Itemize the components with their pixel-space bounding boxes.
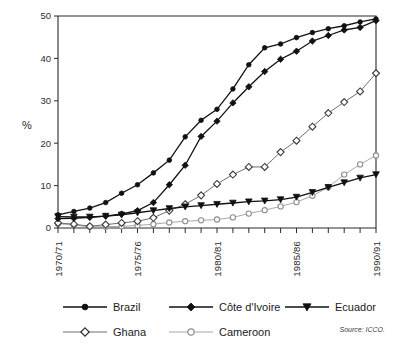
x-axis-tick-label: 1980/81 [212, 241, 223, 277]
y-axis-tick-label: 10 [40, 180, 51, 191]
data-point-marker [231, 87, 236, 92]
data-point-marker [229, 171, 236, 178]
data-point-marker [262, 46, 267, 51]
legend-item-ecuador[interactable]: Ecuador [284, 296, 376, 318]
data-point-marker [167, 220, 172, 225]
data-point-marker [294, 35, 299, 40]
data-point-marker [214, 217, 219, 222]
legend-label: Brazil [113, 301, 141, 313]
y-axis-tick-label: 30 [40, 95, 51, 106]
data-point-marker [230, 215, 235, 220]
y-axis-title: % [22, 119, 32, 131]
x-axis-tick-label: 1985/86 [291, 241, 302, 277]
data-point-marker [246, 211, 251, 216]
x-axis-tick-label: 1990/91 [371, 241, 382, 277]
source-note: Source: ICCO. [339, 326, 385, 333]
data-point-marker [357, 24, 363, 30]
data-point-marker [150, 214, 157, 221]
data-point-marker [247, 62, 252, 67]
line-chart-plot: 01020304050%1970/711975/761980/811985/86… [0, 0, 393, 296]
chart-legend: BrazilCôte d'IvoireEcuador GhanaCameroon… [0, 296, 393, 352]
legend-item-cameroon[interactable]: Cameroon [168, 321, 270, 343]
x-axis-tick-label: 1975/76 [132, 241, 143, 277]
legend-item-brazil[interactable]: Brazil [62, 296, 141, 318]
data-point-marker [358, 162, 363, 167]
plot-area-wrapper: 01020304050%1970/711975/761980/811985/86… [0, 0, 393, 296]
data-point-marker [214, 180, 221, 187]
data-point-marker [278, 204, 283, 209]
legend-label: Ecuador [335, 301, 376, 313]
open-diamond-icon [62, 326, 108, 338]
data-point-marker [151, 171, 156, 176]
legend-label: Ghana [113, 326, 146, 338]
chart-figure: 01020304050%1970/711975/761980/811985/86… [0, 0, 393, 359]
data-point-marker [183, 135, 188, 140]
filled-diamond-icon [168, 301, 214, 313]
y-axis-tick-label: 50 [40, 10, 51, 21]
data-point-marker [88, 206, 93, 211]
x-axis-tick-label: 1970/71 [53, 241, 64, 277]
data-point-marker [293, 48, 299, 54]
legend-label: Côte d'Ivoire [219, 301, 280, 313]
data-point-marker [183, 219, 188, 224]
y-axis-tick-label: 0 [46, 222, 51, 233]
data-point-marker [151, 222, 156, 227]
data-point-marker [103, 200, 108, 205]
data-point-marker [198, 192, 205, 199]
data-point-marker [325, 32, 331, 38]
data-point-marker [358, 20, 363, 25]
data-point-marker [374, 17, 379, 22]
data-point-marker [56, 213, 61, 218]
data-point-marker [262, 208, 267, 213]
data-point-marker [309, 38, 315, 44]
data-point-marker [167, 158, 172, 163]
data-point-marker [245, 163, 252, 170]
data-point-marker [278, 42, 283, 47]
data-point-marker [199, 118, 204, 123]
data-point-marker [326, 26, 331, 31]
data-point-marker [119, 191, 124, 196]
data-point-marker [86, 223, 93, 230]
data-point-marker [342, 23, 347, 28]
data-point-marker [342, 172, 347, 177]
data-point-marker [215, 107, 220, 112]
filled-circle-icon [62, 301, 108, 313]
y-axis-tick-label: 40 [40, 53, 51, 64]
y-axis-tick-label: 20 [40, 138, 51, 149]
legend-label: Cameroon [219, 326, 270, 338]
legend-row-secondary: GhanaCameroon [0, 321, 393, 343]
data-point-marker [341, 99, 348, 106]
data-point-marker [72, 209, 77, 214]
data-point-marker [373, 153, 378, 158]
legend-row-primary: BrazilCôte d'IvoireEcuador [0, 296, 393, 318]
data-point-marker [310, 30, 315, 35]
data-point-marker [199, 218, 204, 223]
open-circle-icon [168, 326, 214, 338]
filled-triangle-down-icon [284, 301, 330, 313]
legend-item-c-te-d-ivoire[interactable]: Côte d'Ivoire [168, 296, 280, 318]
data-point-marker [135, 182, 140, 187]
legend-item-ghana[interactable]: Ghana [62, 321, 146, 343]
